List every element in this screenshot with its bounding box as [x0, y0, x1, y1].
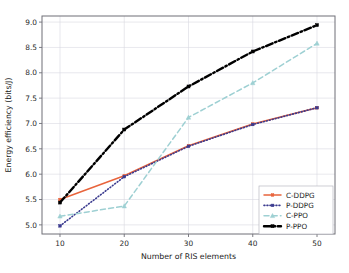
- y-tick-label: 6.0: [25, 170, 37, 179]
- data-point-c-ppo: [315, 41, 319, 45]
- chart-figure: 5.05.56.06.57.07.58.08.59.01020304050Num…: [0, 0, 349, 273]
- x-tick-label: 50: [312, 239, 322, 248]
- y-tick-label: 6.5: [25, 145, 37, 154]
- data-point-p-ppo: [58, 201, 61, 204]
- legend-label-p-ddpg: P-DDPG: [286, 201, 314, 210]
- x-tick-label: 10: [55, 239, 65, 248]
- y-tick-label: 9.0: [25, 18, 37, 27]
- y-tick-label: 8.0: [25, 68, 37, 77]
- legend-label-p-ppo: P-PPO: [286, 222, 307, 231]
- data-point-p-ddpg: [316, 106, 319, 109]
- y-tick-label: 5.5: [25, 195, 37, 204]
- data-point-p-ddpg: [251, 123, 254, 126]
- x-tick-label: 30: [184, 239, 194, 248]
- y-axis-title: Energy efficiency (bits/J): [4, 78, 13, 173]
- data-point-p-ppo: [316, 24, 319, 27]
- legend-label-c-ppo: C-PPO: [286, 211, 308, 220]
- data-point-p-ddpg: [123, 175, 126, 178]
- y-tick-label: 8.5: [25, 43, 37, 52]
- data-point-p-ppo: [123, 128, 126, 131]
- data-point-p-ppo: [187, 85, 190, 88]
- legend-marker-p-ppo: [271, 225, 274, 228]
- x-tick-label: 20: [120, 239, 130, 248]
- legend-marker-p-ddpg: [271, 204, 274, 207]
- legend-marker-c-ddpg: [271, 194, 274, 197]
- legend-label-c-ddpg: C-DDPG: [286, 191, 315, 200]
- data-point-p-ppo: [251, 50, 254, 53]
- y-tick-label: 7.0: [25, 119, 37, 128]
- data-point-p-ddpg: [59, 225, 62, 228]
- x-tick-label: 40: [248, 239, 258, 248]
- line-chart-canvas: 5.05.56.06.57.07.58.08.59.01020304050Num…: [0, 0, 349, 273]
- data-point-p-ddpg: [187, 145, 190, 148]
- y-tick-label: 7.5: [25, 94, 37, 103]
- x-axis-title: Number of RIS elements: [141, 252, 236, 261]
- y-tick-label: 5.0: [25, 221, 37, 230]
